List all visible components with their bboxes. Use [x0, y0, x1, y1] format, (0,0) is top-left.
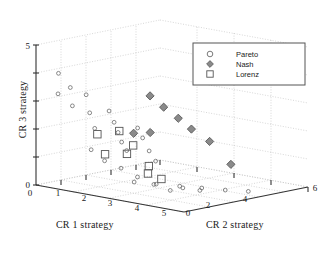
y-tick-label: 2	[206, 200, 211, 210]
marker-nash	[146, 92, 154, 100]
marker-pareto	[88, 111, 92, 115]
marker-pareto	[120, 140, 124, 144]
legend-label-lorenz: Lorenz	[236, 70, 259, 79]
plot-canvas: 5 0 0 1 2 3 4 5 0 2 4 6 Pareto	[0, 0, 323, 253]
grid-left-wall	[36, 20, 160, 185]
marker-lorenz	[94, 131, 101, 138]
legend[interactable]: Pareto Nash Lorenz	[193, 43, 305, 85]
marker-pareto	[136, 175, 140, 179]
x-tick-labels: 0 1 2 3 4 5	[28, 188, 167, 218]
marker-pareto	[132, 180, 136, 184]
y-tick-label: 0	[186, 208, 191, 218]
y-tick-labels: 0 2 4 6	[186, 183, 318, 218]
grid-floor	[36, 160, 308, 212]
y-tick-label: 6	[313, 183, 318, 193]
series-lorenz	[94, 127, 165, 182]
y-axis-ticks	[197, 167, 308, 192]
marker-pareto	[223, 188, 227, 192]
marker-pareto	[112, 120, 116, 124]
marker-lorenz	[145, 162, 152, 169]
marker-nash	[206, 137, 214, 145]
x-tick-label: 3	[108, 198, 113, 208]
marker-pareto	[68, 86, 72, 90]
x-tick-label: 5	[162, 208, 167, 218]
marker-pareto	[246, 189, 250, 193]
series-nash	[130, 92, 235, 169]
z-tick-label: 5	[26, 41, 31, 51]
x-axis-title: CR 1 strategy	[56, 219, 114, 230]
marker-nash	[174, 114, 182, 122]
legend-label-nash: Nash	[236, 60, 254, 69]
marker-nash	[187, 125, 195, 133]
marker-pareto	[103, 159, 107, 163]
x-tick-label: 4	[135, 203, 140, 213]
marker-lorenz	[158, 175, 165, 182]
marker-pareto	[168, 189, 172, 193]
marker-pareto	[154, 159, 158, 163]
figure-3d-scatter-plot: 5 0 0 1 2 3 4 5 0 2 4 6 Pareto	[0, 0, 323, 253]
legend-label-pareto: Pareto	[236, 50, 258, 59]
marker-lorenz	[129, 142, 136, 149]
marker-pareto	[56, 92, 60, 96]
x-tick-label: 2	[82, 193, 87, 203]
marker-pareto	[107, 109, 111, 113]
marker-pareto	[141, 136, 145, 140]
x-tick-label: 1	[56, 188, 61, 198]
marker-pareto	[70, 104, 74, 108]
marker-pareto	[116, 131, 120, 135]
marker-pareto	[57, 71, 61, 75]
x-origin-label: 0	[28, 188, 33, 198]
marker-lorenz	[144, 170, 151, 177]
marker-lorenz	[101, 151, 108, 158]
marker-pareto	[93, 126, 97, 130]
marker-pareto	[181, 186, 185, 190]
marker-nash	[227, 160, 235, 168]
marker-nash	[146, 128, 154, 136]
marker-pareto	[89, 148, 93, 152]
marker-pareto	[119, 166, 123, 170]
marker-lorenz	[123, 150, 130, 157]
marker-nash	[130, 129, 138, 137]
y-tick-label: 4	[243, 194, 248, 204]
z-axis-title: CR 3 strategy	[17, 67, 28, 153]
y-axis-title: CR 2 strategy	[206, 219, 264, 230]
marker-pareto	[147, 149, 151, 153]
